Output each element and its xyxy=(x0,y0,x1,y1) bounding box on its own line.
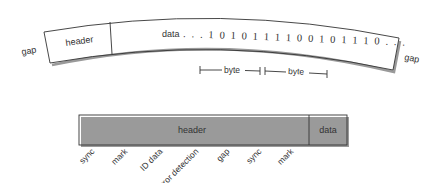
field-label-sync-1: sync xyxy=(77,146,97,166)
track-header-label: header xyxy=(65,34,94,48)
field-label-sync-2: sync xyxy=(244,146,264,166)
track-left-gap-label: gap xyxy=(21,45,38,57)
field-label-mark-1: mark xyxy=(109,146,130,167)
track-data-label: data xyxy=(162,29,180,39)
sector-layout: header data xyxy=(79,115,349,147)
sector-header-label: header xyxy=(178,125,206,135)
sector-field-labels: sync mark ID data error detection gap sy… xyxy=(77,146,296,183)
byte-label-1: byte xyxy=(224,65,240,75)
field-label-id-data: ID data xyxy=(138,146,165,173)
byte-bracket-1: byte xyxy=(200,65,260,75)
byte-bracket-2: byte xyxy=(265,66,327,78)
disk-sector-diagram: gap header data . . . 1 0 1 0 1 1 1 1 0 … xyxy=(0,0,447,183)
sector-data-label: data xyxy=(319,125,337,135)
field-label-mark-2: mark xyxy=(275,146,296,167)
track-right-gap-label: gap xyxy=(404,52,421,64)
field-label-gap: gap xyxy=(214,146,231,163)
track-header-divider xyxy=(110,22,112,54)
byte-label-2: byte xyxy=(288,66,305,77)
track-data-bits: . . . 1 0 1 0 1 1 1 1 0 0 1 0 1 1 1 0 . … xyxy=(183,28,407,48)
